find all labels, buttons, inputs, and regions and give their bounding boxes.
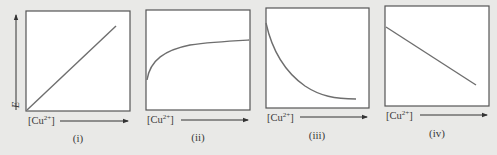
panel-iv: [Cu2+] (iv) xyxy=(385,6,489,140)
panel-label: (ii) xyxy=(191,131,205,144)
plot-frame xyxy=(146,10,250,110)
panel-label: (i) xyxy=(73,132,84,145)
panel-ii: [Cu2+] (ii) xyxy=(146,10,250,144)
y-axis-label: E xyxy=(10,102,21,109)
x-axis-label: [Cu2+] xyxy=(28,114,55,126)
panel-label: (iv) xyxy=(429,127,445,140)
panel-label: (iii) xyxy=(309,129,326,142)
figure: E [Cu2+] (i) [Cu2+] (ii) [Cu2+] (iii) [C… xyxy=(0,0,497,155)
panel-iii: [Cu2+] (iii) xyxy=(266,8,369,142)
x-axis-label: [Cu2+] xyxy=(267,111,294,123)
plot-frame xyxy=(385,6,489,106)
x-axis-label: [Cu2+] xyxy=(386,109,413,121)
x-axis-label: [Cu2+] xyxy=(147,113,174,125)
panel-i: E [Cu2+] (i) xyxy=(10,11,130,145)
